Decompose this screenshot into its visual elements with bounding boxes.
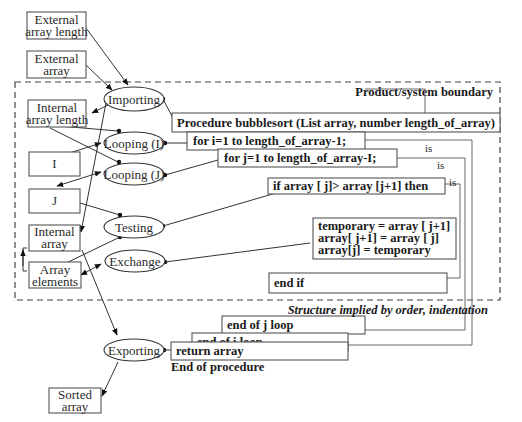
code-return-array: return array [171,342,348,360]
svg-text:end of j loop: end of j loop [227,318,293,332]
svg-text:Procedure bubblesort (List arr: Procedure bubblesort (List array, number… [177,116,495,130]
svg-text:array: array [62,399,89,414]
svg-text:for i=1 to length_of_array-1;: for i=1 to length_of_array-1; [193,134,346,148]
svg-text:array: array [41,236,68,251]
svg-text:array length: array length [25,24,88,39]
svg-text:Looping (I): Looping (I) [104,136,164,151]
code-end-of-procedure: End of procedure [171,360,265,374]
process-testing: Testing [104,216,164,238]
code-procedure-header: Procedure bubblesort (List array, number… [172,113,500,132]
footer-caption: Structure implied by order, indentation [288,303,488,317]
internal-array-box: Internal array [29,224,80,251]
process-exporting: Exporting [104,339,164,361]
process-exchange: Exchange [105,250,165,272]
bubblesort-diagram: Product/system boundary is is is [0,0,522,422]
svg-text:J: J [52,193,57,208]
code-end-j-loop: end of j loop [222,316,365,334]
process-looping-j: Looping (J) [103,163,164,185]
svg-text:Exporting: Exporting [108,343,160,358]
bracket-label-is: is [425,142,432,154]
svg-text:Testing: Testing [115,220,154,235]
external-array-box: External array [27,51,86,78]
code-if: if array [ j]> array [j+1] then [268,178,445,194]
svg-text:array: array [43,63,70,78]
svg-text:Importing: Importing [108,92,160,107]
code-for-i: for i=1 to length_of_array-1; [187,132,365,150]
svg-text:elements: elements [32,274,78,289]
svg-text:for j=1 to length_of_array-I;: for j=1 to length_of_array-I; [224,151,376,165]
code-end-if: end if [269,273,447,293]
j-variable-box: J [29,189,80,213]
i-variable-box: I [29,152,80,176]
bracket-label-is: is [437,159,444,171]
svg-text:array[j] = temporary: array[j] = temporary [318,243,431,257]
svg-text:return array: return array [176,344,244,358]
svg-text:end if: end if [274,276,305,290]
svg-text:if array [ j]> array [j+1] the: if array [ j]> array [j+1] then [273,179,428,193]
process-looping-i: Looping (I) [104,132,164,154]
internal-array-length-box: Internal array length [26,100,89,127]
svg-text:Exchange: Exchange [109,254,160,269]
svg-text:I: I [52,156,56,171]
sorted-array-box: Sorted array [49,387,101,414]
process-importing: Importing [104,87,164,111]
code-swap-block: temporary = array [ j+1] array[ j+1] = a… [313,218,456,259]
external-array-length-box: External array length [25,12,88,39]
array-elements-box: Array elements [29,262,81,289]
svg-text:array length: array length [26,112,89,127]
svg-text:Looping (J): Looping (J) [103,167,164,182]
bracket-label-is: is [449,176,456,188]
code-for-j: for j=1 to length_of_array-I; [218,149,397,167]
